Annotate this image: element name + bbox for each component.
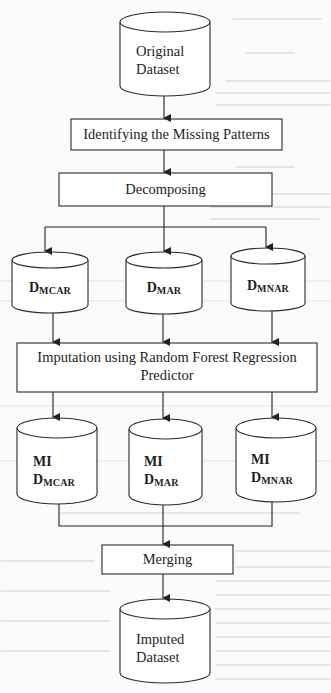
mi-d-mar-main: D — [144, 472, 154, 487]
mi-d-mnar-prefix: MI — [251, 451, 293, 469]
mi-d-mnar-label: MI DMNAR — [251, 451, 293, 490]
flowchart-canvas — [0, 0, 331, 693]
mi-d-mar-label: MI DMAR — [144, 453, 179, 492]
mi-d-mcar-subscript: MCAR — [43, 477, 75, 488]
mi-d-mcar-prefix: MI — [33, 453, 75, 471]
imputation-label: Imputation using Random Forest Regressio… — [17, 348, 317, 384]
imputed-dataset-label: Imputed Dataset — [120, 630, 210, 666]
original-dataset-line1: Original — [136, 42, 210, 60]
merge-join-line — [59, 502, 272, 526]
merging-label: Merging — [102, 550, 233, 568]
mi-d-mar-prefix: MI — [144, 453, 179, 471]
d-mcar-main: D — [29, 280, 39, 295]
mi-d-mnar-main: D — [251, 470, 261, 485]
imputed-dataset-line2: Dataset — [136, 648, 210, 666]
mi-d-mcar-main: D — [33, 472, 43, 487]
d-mar-label: DMAR — [126, 279, 202, 300]
imputation-line2: Predictor — [17, 366, 317, 384]
original-dataset-label: Original Dataset — [120, 42, 210, 78]
identifying-label: Identifying the Missing Patterns — [71, 125, 282, 143]
mi-d-mnar-subscript: MNAR — [261, 475, 293, 486]
imputed-dataset-line1: Imputed — [136, 630, 210, 648]
d-mar-subscript: MAR — [157, 285, 181, 296]
d-mar-main: D — [147, 280, 157, 295]
mi-d-mcar-label: MI DMCAR — [33, 453, 75, 492]
d-mnar-subscript: MNAR — [257, 283, 289, 294]
original-dataset-line2: Dataset — [136, 60, 210, 78]
mi-d-mar-subscript: MAR — [154, 477, 178, 488]
imputation-line1: Imputation using Random Forest Regressio… — [17, 348, 317, 366]
decomposing-label: Decomposing — [59, 180, 272, 198]
d-mnar-main: D — [247, 278, 257, 293]
d-mnar-label: DMNAR — [231, 277, 305, 298]
d-mcar-label: DMCAR — [12, 279, 88, 300]
d-mcar-subscript: MCAR — [39, 285, 71, 296]
